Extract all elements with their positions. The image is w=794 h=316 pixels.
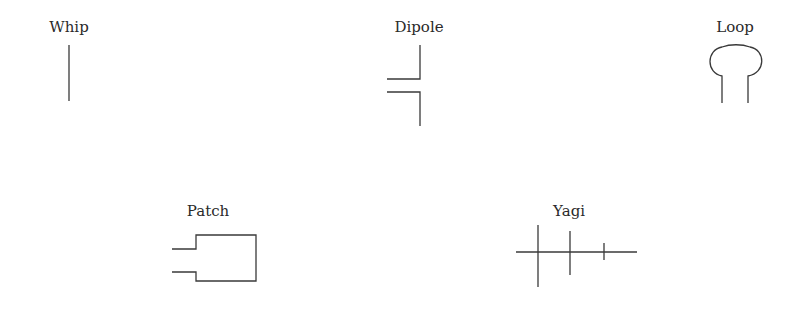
patch-label: Patch xyxy=(187,202,230,220)
whip-antenna: Whip xyxy=(49,18,88,101)
yagi-antenna: Yagi xyxy=(516,202,637,287)
yagi-label: Yagi xyxy=(552,202,585,220)
whip-label: Whip xyxy=(49,18,88,36)
dipole-symbol-icon xyxy=(387,45,420,126)
loop-label: Loop xyxy=(716,18,754,36)
antenna-diagram: Whip Dipole Loop Patch Yagi xyxy=(0,0,794,316)
patch-antenna: Patch xyxy=(172,202,256,281)
yagi-symbol-icon xyxy=(516,225,637,287)
patch-symbol-icon xyxy=(172,235,256,281)
dipole-antenna: Dipole xyxy=(387,18,444,126)
loop-antenna: Loop xyxy=(710,18,762,103)
dipole-label: Dipole xyxy=(394,18,443,36)
loop-symbol-icon xyxy=(710,45,762,103)
